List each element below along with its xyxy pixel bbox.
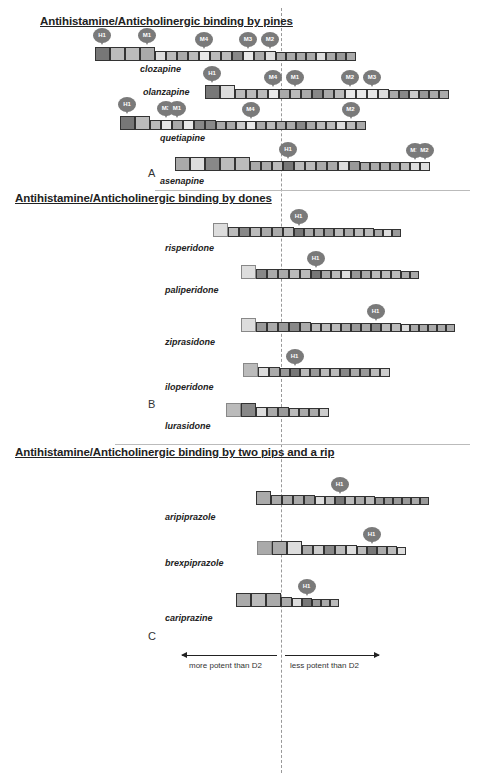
receptor-box [300, 368, 310, 377]
receptor-pin-h1: H1 [290, 209, 308, 224]
receptor-box [446, 324, 455, 332]
receptor-box [310, 368, 320, 377]
receptor-box [199, 51, 210, 61]
receptor-box [325, 496, 335, 505]
receptor-box [232, 51, 243, 61]
section-divider [155, 190, 470, 191]
receptor-box [289, 408, 299, 417]
receptor-box [311, 323, 321, 332]
receptor-box [271, 495, 282, 505]
receptor-box [241, 403, 256, 417]
receptor-box [261, 227, 272, 237]
drug-label: brexpiprazole [165, 558, 224, 568]
receptor-pin-m1: M1 [168, 101, 186, 116]
more-potent-label: more potent than D2 [189, 661, 262, 670]
receptor-box [306, 52, 316, 61]
receptor-box [311, 270, 321, 279]
receptor-pin-m4: M4 [242, 102, 260, 117]
receptor-box [323, 89, 334, 99]
receptor-box [221, 51, 232, 61]
receptor-box [213, 223, 228, 237]
receptor-box [402, 497, 411, 505]
receptor-box [150, 120, 161, 130]
receptor-box [312, 89, 323, 99]
receptor-box [287, 541, 302, 555]
receptor-box [367, 89, 378, 99]
receptor-box [377, 546, 387, 555]
receptor-box [401, 271, 410, 279]
receptor-box [370, 368, 380, 377]
receptor-box [257, 89, 268, 99]
receptor-box [312, 599, 321, 607]
receptor-box [429, 90, 439, 99]
panel-label-a: A [148, 167, 155, 179]
receptor-box [354, 228, 364, 237]
receptor-box [349, 161, 360, 171]
receptor-box [257, 541, 272, 555]
receptor-box [316, 121, 326, 130]
section-title-pips-rip: Antihistamine/Anticholinergic binding by… [15, 446, 334, 458]
receptor-box [292, 598, 302, 607]
receptor-box [272, 541, 287, 555]
receptor-box [166, 51, 177, 61]
receptor-box [320, 368, 330, 377]
receptor-box [266, 593, 281, 607]
receptor-box [235, 157, 250, 171]
receptor-box [360, 368, 370, 377]
receptor-box [177, 51, 188, 61]
receptor-box [256, 121, 266, 130]
receptor-box [254, 51, 265, 61]
receptor-box [419, 324, 428, 332]
receptor-box [374, 229, 383, 237]
receptor-box [267, 407, 278, 417]
receptor-box [409, 90, 419, 99]
receptor-box [391, 270, 401, 279]
receptor-box [340, 368, 350, 377]
receptor-box [269, 367, 280, 377]
receptor-box [410, 162, 420, 171]
receptor-box [256, 407, 267, 417]
receptor-box [306, 121, 316, 130]
receptor-box [321, 270, 331, 279]
receptor-box [367, 546, 377, 555]
receptor-box [302, 545, 313, 555]
receptor-box [243, 363, 258, 377]
receptor-box [183, 120, 194, 130]
receptor-box [281, 597, 292, 607]
receptor-pin-h1: H1 [367, 304, 385, 319]
receptor-box [300, 269, 311, 279]
receptor-box [290, 368, 300, 377]
receptor-box [256, 322, 267, 332]
receptor-box [304, 228, 314, 237]
receptor-box [380, 162, 390, 171]
receptor-box [321, 323, 331, 332]
receptor-box [296, 121, 306, 130]
receptor-box [261, 161, 272, 171]
receptor-box [283, 227, 294, 237]
receptor-box [282, 495, 293, 505]
receptor-box [278, 269, 289, 279]
receptor-box [286, 52, 296, 61]
receptor-box [316, 161, 327, 171]
receptor-box [336, 121, 346, 130]
receptor-box [397, 547, 406, 555]
receptor-box [172, 120, 183, 130]
receptor-box [439, 90, 449, 99]
receptor-box [265, 51, 276, 61]
receptor-box [286, 121, 296, 130]
receptor-box [236, 121, 246, 130]
receptor-box [289, 269, 300, 279]
drug-label: iloperidone [165, 382, 214, 392]
receptor-box [410, 271, 419, 279]
receptor-box [301, 89, 312, 99]
receptor-pin-m4: M4 [195, 32, 213, 47]
receptor-box [188, 51, 199, 61]
receptor-box [190, 157, 205, 171]
receptor-box [250, 161, 261, 171]
less-potent-label: less potent than D2 [290, 661, 359, 670]
drug-label: aripiprazole [165, 512, 216, 522]
receptor-box [381, 323, 391, 332]
receptor-box [351, 270, 361, 279]
receptor-box [300, 322, 311, 332]
receptor-box [334, 89, 345, 99]
